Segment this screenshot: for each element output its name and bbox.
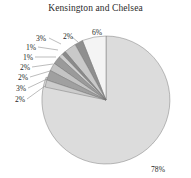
pie-chart-canvas: 6% 2% 3% 1% 1% 2% 2% 3% 2% 78% bbox=[0, 0, 191, 178]
pie-label-78: 78% bbox=[151, 165, 166, 174]
pie-label-2-b: 2% bbox=[20, 63, 31, 72]
leader-line-1-a bbox=[38, 47, 58, 50]
pie-chart-figure: Kensington and Chelsea bbox=[0, 0, 191, 178]
pie-label-6: 6% bbox=[92, 28, 103, 37]
pie-label-3-a: 3% bbox=[36, 34, 47, 43]
leader-line-2-c bbox=[30, 71, 50, 77]
pie-label-3-b: 3% bbox=[16, 84, 27, 93]
pie-label-1-a: 1% bbox=[26, 43, 37, 52]
leader-line-2-b bbox=[32, 64, 53, 67]
pie-label-2-c: 2% bbox=[18, 73, 29, 82]
leader-line-3-a bbox=[49, 38, 61, 44]
pie-label-1-b: 1% bbox=[23, 53, 34, 62]
pie-label-2-a: 2% bbox=[63, 32, 74, 41]
pie-label-2-d: 2% bbox=[15, 95, 26, 104]
